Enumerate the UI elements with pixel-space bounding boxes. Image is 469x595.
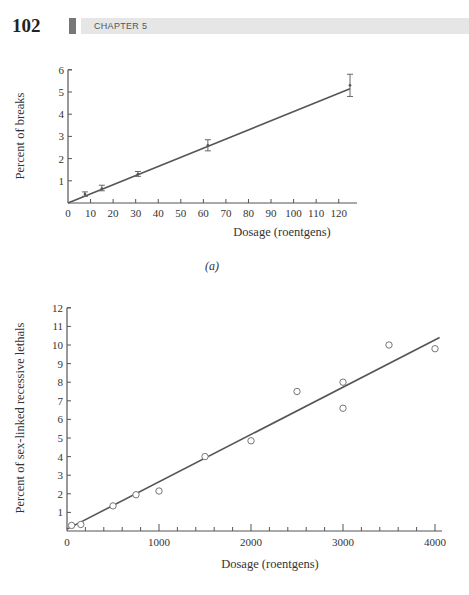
data-point [248,438,254,444]
data-point [294,388,300,394]
x-tick-label: 0 [65,207,71,219]
y-tick-label: 4 [59,108,65,120]
y-tick-label: 1 [59,175,65,187]
data-point [78,521,84,527]
x-tick-label: 80 [243,207,255,219]
x-tick-label: 90 [266,207,278,219]
y-tick-label: 9 [58,358,64,370]
y-axis-label: Percent of sex-linked recessive lethals [13,322,27,513]
x-tick-label: 110 [308,207,325,219]
data-point [340,405,346,411]
y-tick-label: 6 [59,64,65,76]
data-point [432,346,438,352]
x-tick-label: 0 [64,536,70,548]
data-point [207,144,210,147]
x-axis-label: Dosage (roentgens) [233,225,331,239]
chart-a: 1234560102030405060708090100110120Percen… [13,64,357,273]
data-point [84,193,87,196]
x-tick-label: 1000 [148,536,171,548]
y-tick-label: 5 [59,86,65,98]
y-tick-label: 7 [58,395,64,407]
y-tick-label: 8 [58,376,64,388]
data-point [110,503,116,509]
y-tick-label: 2 [58,488,64,500]
data-point [349,84,352,87]
x-tick-label: 120 [330,207,347,219]
x-tick-label: 50 [175,207,187,219]
fit-line [67,338,440,530]
y-tick-label: 11 [52,320,63,332]
y-tick-label: 3 [58,469,64,481]
y-axis-label: Percent of breaks [13,92,27,179]
panel-label: (a) [205,259,219,273]
data-point [156,488,162,494]
y-tick-label: 12 [52,302,63,314]
x-tick-label: 100 [285,207,302,219]
data-point [133,492,139,498]
x-tick-label: 3000 [332,536,355,548]
y-tick-label: 4 [58,451,64,463]
data-point [101,187,104,190]
x-tick-label: 30 [130,207,142,219]
y-tick-label: 10 [52,339,64,351]
y-tick-label: 2 [59,153,65,165]
x-tick-label: 10 [85,207,97,219]
x-tick-label: 40 [153,207,165,219]
x-tick-label: 20 [108,207,120,219]
y-tick-label: 5 [58,432,64,444]
y-tick-label: 3 [59,130,65,142]
x-tick-label: 60 [198,207,210,219]
data-point [340,379,346,385]
x-tick-label: 4000 [424,536,447,548]
y-tick-label: 6 [58,413,64,425]
chart-b: 12345678910111201000200030004000Percent … [13,302,447,571]
x-tick-label: 2000 [240,536,263,548]
chart-a-percent-breaks: 1234560102030405060708090100110120Percen… [0,0,469,595]
data-point [202,453,208,459]
data-point [386,342,392,348]
x-tick-label: 70 [220,207,232,219]
y-tick-label: 1 [58,506,64,518]
data-point [68,522,74,528]
data-point [137,173,140,176]
x-axis-label: Dosage (roentgens) [221,557,319,571]
